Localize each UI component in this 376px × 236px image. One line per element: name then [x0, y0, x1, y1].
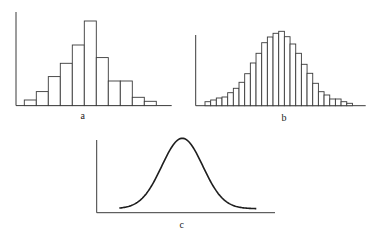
histogram-bar — [245, 74, 251, 106]
normal-curve-c: c — [97, 138, 275, 230]
bell-curve — [119, 138, 256, 208]
histogram-bar — [239, 82, 245, 105]
histogram-a: a — [16, 12, 172, 121]
histogram-bar — [301, 64, 307, 105]
histogram-bar — [250, 63, 256, 106]
histogram-bar — [233, 88, 239, 105]
histogram-bar — [211, 100, 217, 106]
histogram-b-bars — [205, 31, 352, 105]
histogram-bar — [132, 97, 144, 105]
histogram-bar — [60, 63, 72, 105]
histogram-b: b — [196, 31, 366, 123]
histogram-bar — [205, 102, 211, 106]
histogram-bar — [228, 93, 234, 106]
histogram-bar — [313, 83, 319, 105]
histogram-bar — [84, 21, 96, 106]
histogram-bar — [108, 81, 120, 106]
histogram-bar — [267, 37, 273, 106]
histogram-bar — [222, 97, 228, 106]
histogram-bar — [144, 101, 156, 105]
histogram-bar — [96, 58, 108, 106]
figure-canvas: a b c — [0, 0, 376, 236]
histogram-bar — [330, 99, 336, 106]
histogram-bar — [256, 53, 262, 105]
histogram-bar — [347, 103, 353, 105]
histogram-bar — [216, 98, 222, 106]
histogram-bar — [72, 45, 84, 106]
histogram-bar — [341, 102, 347, 106]
histogram-bar — [279, 31, 285, 105]
histogram-bar — [36, 92, 48, 106]
histogram-bar — [48, 77, 60, 106]
histogram-bar — [24, 100, 36, 106]
histogram-bar — [324, 95, 330, 106]
panel-label-b: b — [282, 112, 287, 123]
histogram-a-bars — [24, 21, 156, 106]
panel-label-c: c — [179, 219, 184, 230]
histogram-bar — [284, 37, 290, 106]
panel-label-a: a — [80, 110, 85, 121]
normal-curve-c-axes — [97, 140, 275, 213]
histogram-bar — [273, 33, 279, 105]
histogram-bar — [296, 53, 302, 105]
histogram-bar — [318, 92, 324, 106]
histogram-bar — [262, 43, 268, 106]
histogram-bar — [120, 81, 132, 106]
histogram-bar — [290, 44, 296, 106]
histogram-bar — [307, 73, 313, 105]
histogram-bar — [335, 99, 341, 106]
